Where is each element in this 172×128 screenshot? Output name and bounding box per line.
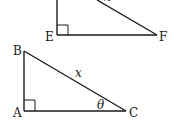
- vertex-label-A: A: [12, 106, 22, 120]
- top-triangle-hypotenuse: [97, 0, 157, 35]
- vertex-label-F: F: [159, 30, 167, 44]
- vertex-label-E: E: [45, 30, 54, 44]
- vertex-label-B: B: [13, 44, 22, 58]
- bottom-triangle: [24, 51, 126, 111]
- angle-label-theta: θ: [97, 98, 105, 112]
- vertex-label-C: C: [129, 106, 138, 120]
- hypotenuse-BC: [24, 51, 126, 111]
- right-angle-marker-A: [24, 100, 35, 111]
- right-angle-marker-E: [57, 25, 68, 35]
- top-triangle: [57, 0, 157, 35]
- triangles-diagram: x E F B A C x θ: [0, 0, 172, 128]
- top-partial-label: x: [104, 0, 111, 4]
- hypotenuse-label-x: x: [75, 66, 82, 80]
